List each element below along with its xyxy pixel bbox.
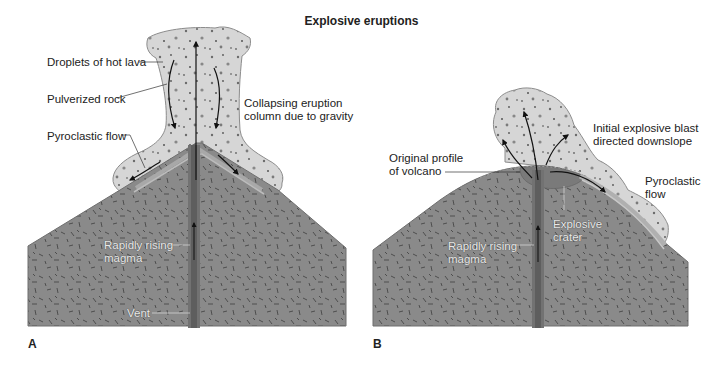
label-rapidly-rising-magma-b: Rapidly rising magma (448, 240, 517, 266)
label-initial-explosive-blast: Initial explosive blast directed downslo… (593, 122, 698, 148)
label-pyroclastic-flow-a: Pyroclastic flow (47, 130, 126, 143)
label-pyroclastic-flow-b: Pyroclastic flow (645, 175, 701, 201)
panel-letter-b: B (373, 337, 382, 351)
label-collapsing-column: Collapsing eruption column due to gravit… (244, 97, 353, 123)
volcano-cone-b (373, 166, 688, 326)
label-rapidly-rising-magma-a: Rapidly rising magma (104, 239, 173, 265)
volcano-cone-a (28, 143, 346, 326)
label-explosive-crater: Explosive crater (553, 218, 602, 244)
label-droplets-of-hot-lava: Droplets of hot lava (47, 56, 146, 69)
panel-a-illustration (28, 27, 346, 328)
label-vent: Vent (127, 307, 150, 320)
label-pulverized-rock: Pulverized rock (47, 93, 126, 106)
panel-letter-a: A (28, 337, 37, 351)
eruption-diagram (0, 0, 723, 365)
label-original-profile: Original profile of volcano (389, 152, 463, 178)
diagram-title: Explosive eruptions (0, 14, 723, 28)
